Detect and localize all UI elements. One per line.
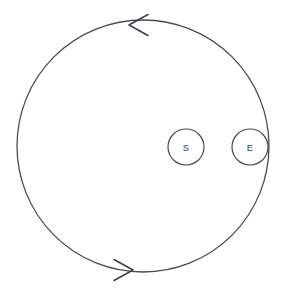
node-s-label: S bbox=[183, 142, 190, 153]
node-e-label: E bbox=[247, 142, 254, 153]
orbit-circle bbox=[17, 20, 269, 272]
node-s[interactable]: S bbox=[168, 129, 204, 165]
top-arrowhead-icon bbox=[129, 15, 148, 36]
diagram-canvas: S E bbox=[0, 0, 284, 292]
orbit-diagram-svg: S E bbox=[0, 0, 284, 292]
node-e[interactable]: E bbox=[232, 129, 268, 165]
